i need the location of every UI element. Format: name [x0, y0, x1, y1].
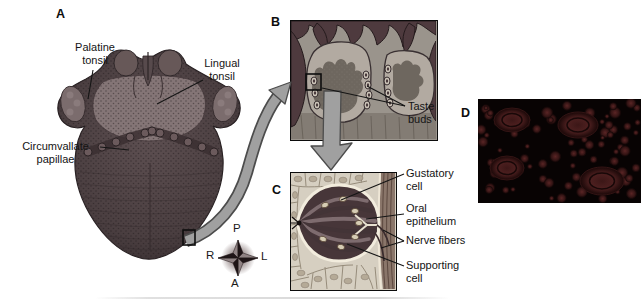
label-oral-epithelium: Oral epithelium — [406, 202, 456, 227]
label-lingual-tonsil: Lingual tonsil — [194, 57, 250, 82]
label-palatine-tonsil: Palatine tonsil — [58, 41, 132, 66]
compass-label-right: R — [206, 249, 214, 261]
compass-label-posterior: P — [233, 222, 241, 234]
label-taste-buds: Taste buds — [408, 100, 434, 125]
label-gustatory-cell: Gustatory cell — [406, 167, 454, 192]
figure-tongue-taste-anatomy: A B C D Palatine tonsil Lingual tonsil C… — [0, 0, 641, 302]
panel-b-letter: B — [271, 15, 280, 29]
label-supporting-cell: Supporting cell — [406, 259, 459, 284]
panel-a-letter: A — [56, 7, 65, 21]
compass-rose — [218, 240, 258, 276]
panel-c-box — [290, 172, 397, 291]
panel-c-illustration — [291, 173, 395, 289]
panel-d-letter: D — [461, 106, 470, 120]
compass-label-anterior: A — [231, 277, 239, 289]
compass-label-left: L — [261, 250, 267, 262]
panel-c-letter: C — [272, 183, 281, 197]
label-nerve-fibers: Nerve fibers — [406, 234, 465, 247]
panel-d-micrograph — [478, 99, 641, 203]
label-circumvallate-papillae: Circumvallate papillae — [8, 140, 103, 165]
